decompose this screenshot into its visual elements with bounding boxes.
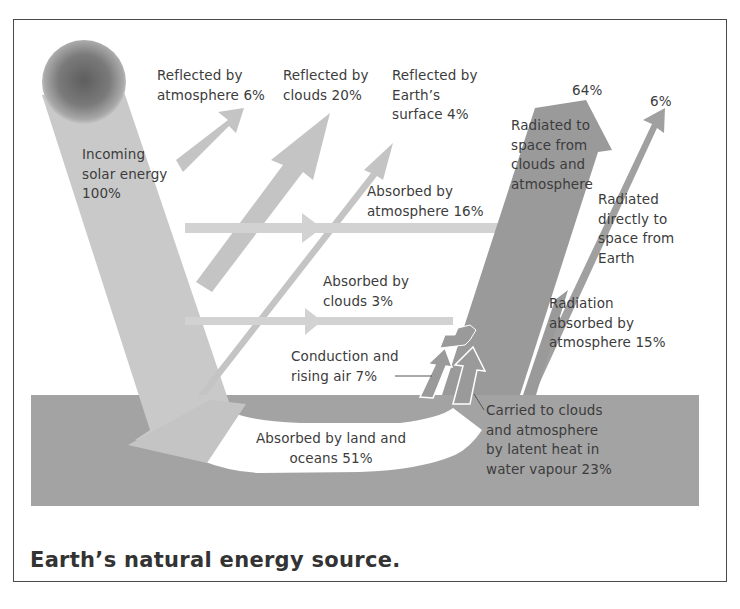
reflected-atmosphere-arrow [176, 108, 244, 172]
label-radiated-direct: Radiated directly to space from Earth [598, 190, 674, 268]
label-reflected-surface: Reflected by Earth’s surface 4% [392, 66, 478, 125]
absorbed-atmosphere-beam [185, 223, 505, 233]
label-radiated-direct-pct: 6% [650, 92, 672, 112]
label-reflected-atmosphere: Reflected by atmosphere 6% [157, 66, 265, 105]
sun-icon [42, 40, 126, 124]
reflected-clouds-arrow [196, 113, 330, 292]
label-conduction: Conduction and rising air 7% [291, 347, 399, 386]
label-absorbed-land: Absorbed by land and oceans 51% [256, 429, 406, 468]
label-absorbed-atmosphere: Absorbed by atmosphere 16% [367, 182, 484, 221]
figure-caption: Earth’s natural energy source. [30, 548, 401, 572]
label-incoming-solar-energy: Incoming solar energy 100% [82, 145, 167, 204]
label-latent-heat: Carried to clouds and atmosphere by late… [486, 401, 612, 479]
label-radiation-absorbed: Radiation absorbed by atmosphere 15% [549, 294, 666, 353]
absorbed-atmosphere-arrowhead [302, 213, 322, 243]
label-radiated-clouds: Radiated to space from clouds and atmosp… [511, 116, 593, 194]
label-radiated-clouds-pct: 64% [572, 81, 602, 101]
label-absorbed-clouds: Absorbed by clouds 3% [323, 272, 409, 311]
absorbed-clouds-arrowhead [305, 308, 322, 335]
label-reflected-clouds: Reflected by clouds 20% [283, 66, 369, 105]
